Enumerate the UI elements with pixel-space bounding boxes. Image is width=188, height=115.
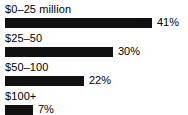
bar-value-label: 7% <box>38 104 54 115</box>
bar-row: 7% <box>5 104 188 115</box>
bar <box>5 76 84 86</box>
bar-value-label: 30% <box>118 46 140 57</box>
bar-category-label: $25–50 <box>5 32 188 45</box>
bar-category-label: $100+ <box>5 90 188 103</box>
bar-group: $100+ 7% <box>5 90 188 115</box>
bar-category-label: $0–25 million <box>5 3 188 16</box>
bar-group: $0–25 million 41% <box>5 3 188 28</box>
bar <box>5 18 152 28</box>
bar <box>5 47 113 57</box>
bar-group: $25–50 30% <box>5 32 188 57</box>
bar-row: 41% <box>5 17 188 28</box>
bar-group: $50–100 22% <box>5 61 188 86</box>
bar <box>5 105 33 115</box>
horizontal-bar-chart: $0–25 million 41% $25–50 30% $50–100 22%… <box>0 0 188 115</box>
bar-category-label: $50–100 <box>5 61 188 74</box>
bar-value-label: 41% <box>157 17 179 28</box>
bar-row: 22% <box>5 75 188 86</box>
bar-row: 30% <box>5 46 188 57</box>
bar-value-label: 22% <box>89 75 111 86</box>
